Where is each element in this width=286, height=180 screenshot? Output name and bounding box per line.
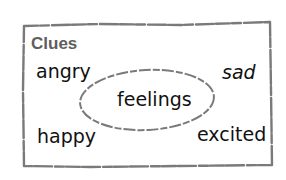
clue-happy: happy xyxy=(37,127,96,146)
clue-sad: sad xyxy=(222,63,256,82)
clue-excited: excited xyxy=(197,125,266,144)
center-word-feelings: feelings xyxy=(117,90,192,109)
clues-title: Clues xyxy=(31,34,77,54)
clue-angry: angry xyxy=(36,62,91,81)
